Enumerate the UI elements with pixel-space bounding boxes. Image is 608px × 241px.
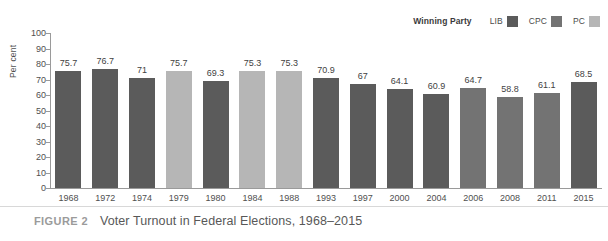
legend-entry-lib: LIB [490, 16, 518, 27]
x-tick-label-1988: 1988 [279, 194, 299, 203]
bar-2011[interactable] [534, 93, 560, 188]
figure-voter-turnout: Winning Party LIB CPC PC Per cent 010203… [0, 0, 608, 241]
bar-value-label: 75.7 [60, 59, 78, 68]
bar-slot: 68.52015 [565, 33, 602, 188]
bar-slot: 671997 [344, 33, 381, 188]
bar-value-label: 61.1 [538, 81, 556, 90]
x-tick-label-1984: 1984 [242, 194, 262, 203]
bar-2004[interactable] [423, 94, 449, 188]
y-tick-label: 50 [0, 107, 46, 116]
bar-value-label: 71 [137, 66, 147, 75]
bar-1980[interactable] [203, 81, 229, 188]
x-tick-label-1979: 1979 [169, 194, 189, 203]
y-tick-label: 70 [0, 76, 46, 85]
y-tick-label: 90 [0, 45, 46, 54]
bar-value-label: 60.9 [428, 82, 446, 91]
bar-slot: 76.71972 [87, 33, 124, 188]
bar-value-label: 69.3 [207, 69, 225, 78]
bar-slot: 60.92004 [418, 33, 455, 188]
x-tick-label-1993: 1993 [316, 194, 336, 203]
x-axis-line [50, 188, 602, 189]
legend-swatch-pc [589, 16, 600, 27]
bar-2008[interactable] [497, 97, 523, 188]
bar-1984[interactable] [239, 71, 265, 188]
legend-swatch-cpc [551, 16, 562, 27]
bar-2000[interactable] [387, 89, 413, 188]
bar-value-label: 75.7 [170, 59, 188, 68]
bar-slot: 75.31988 [271, 33, 308, 188]
x-tick-label-2006: 2006 [463, 194, 483, 203]
figure-number: FIGURE 2 [34, 215, 88, 227]
y-tick-label: 0 [0, 184, 46, 193]
bar-slot: 58.82008 [492, 33, 529, 188]
x-tick-label-2004: 2004 [426, 194, 446, 203]
x-tick-label-2015: 2015 [574, 194, 594, 203]
bar-value-label: 70.9 [317, 66, 335, 75]
bar-value-label: 67 [358, 72, 368, 81]
x-tick-label-2011: 2011 [537, 194, 556, 203]
legend-label-cpc: CPC [529, 16, 547, 26]
bar-value-label: 64.1 [391, 77, 409, 86]
bar-1988[interactable] [276, 71, 302, 188]
figure-title: Voter Turnout in Federal Elections, 1968… [100, 214, 362, 228]
bar-slot: 70.91993 [308, 33, 345, 188]
bar-1997[interactable] [350, 84, 376, 188]
x-tick-label-2000: 2000 [390, 194, 410, 203]
bar-1974[interactable] [129, 78, 155, 188]
y-tick-label: 40 [0, 122, 46, 131]
figure-caption: FIGURE 2 Voter Turnout in Federal Electi… [34, 214, 362, 228]
bar-value-label: 75.3 [244, 59, 262, 68]
legend-entry-cpc: CPC [529, 16, 562, 27]
bar-slot: 75.31984 [234, 33, 271, 188]
y-tick-label: 60 [0, 91, 46, 100]
bar-slot: 64.12000 [381, 33, 418, 188]
y-tick-label: 30 [0, 138, 46, 147]
chart-legend: Winning Party LIB CPC PC [413, 14, 600, 28]
legend-label-pc: PC [573, 16, 585, 26]
x-tick-label-1968: 1968 [58, 194, 78, 203]
bar-1993[interactable] [313, 78, 339, 188]
bar-value-label: 76.7 [96, 57, 114, 66]
bar-slot: 64.72006 [455, 33, 492, 188]
bar-2015[interactable] [571, 82, 597, 188]
bar-1972[interactable] [92, 69, 118, 188]
bar-2006[interactable] [460, 88, 486, 188]
legend-entry-pc: PC [573, 16, 600, 27]
x-tick-label-2008: 2008 [500, 194, 520, 203]
bar-slot: 75.71968 [50, 33, 87, 188]
x-tick-label-1980: 1980 [206, 194, 226, 203]
y-tick-label: 20 [0, 153, 46, 162]
bar-slot: 61.12011 [528, 33, 565, 188]
bar-slot: 711974 [124, 33, 161, 188]
bar-value-label: 58.8 [501, 85, 519, 94]
bar-value-label: 68.5 [575, 70, 593, 79]
legend-label-lib: LIB [490, 16, 503, 26]
bar-slot: 69.31980 [197, 33, 234, 188]
x-tick-label-1997: 1997 [353, 194, 373, 203]
y-tick-label: 80 [0, 60, 46, 69]
caption-divider [0, 206, 608, 207]
bar-1968[interactable] [55, 71, 81, 188]
bar-value-label: 64.7 [464, 76, 482, 85]
plot-area: 0102030405060708090100 75.7196876.719727… [50, 33, 602, 188]
y-tick-mark [46, 188, 50, 189]
y-tick-label: 100 [0, 29, 46, 38]
legend-title: Winning Party [413, 16, 471, 26]
bar-1979[interactable] [166, 71, 192, 188]
bar-slot: 75.71979 [160, 33, 197, 188]
y-tick-label: 10 [0, 169, 46, 178]
x-tick-label-1972: 1972 [95, 194, 115, 203]
legend-swatch-lib [507, 16, 518, 27]
bar-value-label: 75.3 [280, 59, 298, 68]
x-tick-label-1974: 1974 [132, 194, 152, 203]
